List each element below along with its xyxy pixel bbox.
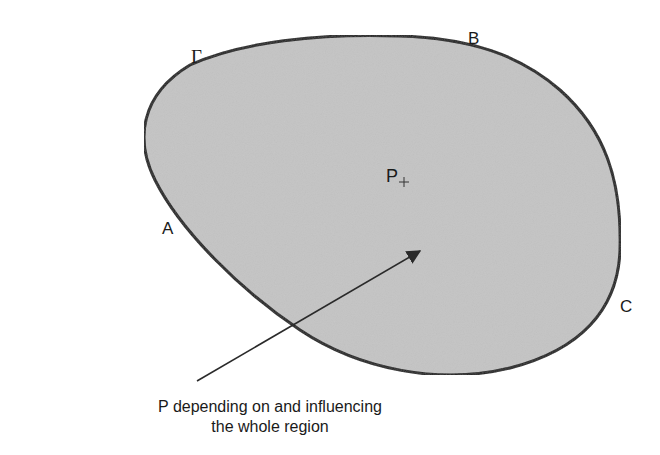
label-a: A bbox=[162, 220, 173, 237]
label-c: C bbox=[620, 298, 632, 315]
label-b: B bbox=[468, 30, 479, 47]
region-boundary-gamma bbox=[144, 35, 620, 374]
figure-caption: P depending on and influencing the whole… bbox=[120, 397, 420, 437]
caption-line-1: P depending on and influencing bbox=[120, 397, 420, 417]
caption-line-2: the whole region bbox=[120, 417, 420, 437]
label-gamma: Γ bbox=[191, 47, 202, 66]
region-diagram bbox=[0, 0, 660, 455]
label-p: P bbox=[386, 167, 398, 185]
